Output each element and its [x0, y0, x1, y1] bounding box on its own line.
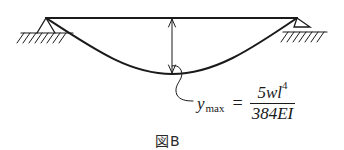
- left-ground-hatching: [17, 33, 66, 43]
- max-deflection-arrow: [169, 19, 176, 73]
- formula-numerator-text: 5wl: [257, 83, 282, 102]
- right-roller-support: [281, 18, 327, 42]
- formula-lhs-symbol: y: [197, 94, 205, 114]
- formula-equals-sign: =: [233, 93, 243, 114]
- formula-numerator-exponent: 4: [282, 79, 288, 91]
- formula-leader-line: [172, 66, 193, 101]
- beam-deflection-diagram: [0, 0, 344, 150]
- formula-lhs-subscript: max: [206, 102, 225, 114]
- figure-caption: 図B: [155, 130, 181, 150]
- right-ground-hatching: [281, 32, 324, 42]
- max-deflection-formula: y max = 5wl4 384EI: [197, 84, 295, 123]
- formula-denominator: 384EI: [250, 105, 296, 123]
- formula-numerator: 5wl4: [255, 84, 289, 102]
- formula-fraction: 5wl4 384EI: [250, 84, 296, 123]
